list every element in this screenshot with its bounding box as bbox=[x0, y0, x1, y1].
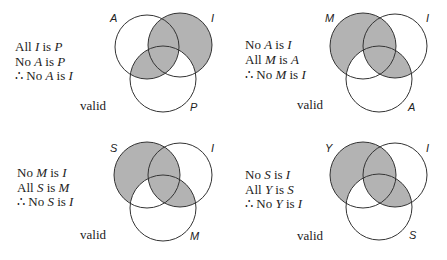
circle-label: S bbox=[110, 142, 118, 154]
syllogism-1: All I is P No A is P ∴ No A is I valid A… bbox=[15, 12, 214, 113]
verdict-label: valid bbox=[297, 97, 323, 112]
circle-label: I bbox=[211, 12, 214, 24]
venn-diagram-1: A I P bbox=[109, 12, 214, 113]
premise-line: No A is P bbox=[15, 54, 65, 69]
circle-label: I bbox=[211, 142, 214, 154]
premise-line: All I is P bbox=[15, 39, 62, 54]
conclusion-line: ∴ No Y is I bbox=[245, 196, 303, 211]
premise-line: All Y is S bbox=[245, 182, 294, 197]
venn-diagram-2: M I A bbox=[325, 12, 429, 113]
verdict-label: valid bbox=[80, 98, 106, 113]
premise-line: No M is I bbox=[17, 165, 67, 180]
conclusion-line: ∴ No A is I bbox=[15, 68, 74, 83]
verdict-label: valid bbox=[80, 227, 106, 242]
venn-diagram-figure: All I is P No A is P ∴ No A is I valid A… bbox=[0, 0, 447, 260]
circle-label: I bbox=[426, 142, 429, 154]
conclusion-line: ∴ No S is I bbox=[17, 194, 74, 209]
circle-label: M bbox=[190, 230, 200, 242]
syllogism-3: No M is I All S is M ∴ No S is I valid S… bbox=[17, 142, 214, 242]
premise-line: No S is I bbox=[245, 167, 291, 182]
premises-1: All I is P No A is P ∴ No A is I bbox=[15, 39, 74, 83]
venn-diagram-3: S I M bbox=[110, 142, 214, 242]
verdict-label: valid bbox=[297, 228, 323, 243]
circle-label: S bbox=[409, 229, 417, 241]
premise-line: No A is I bbox=[245, 37, 292, 52]
circle-label: Y bbox=[325, 142, 333, 154]
syllogism-4: No S is I All Y is S ∴ No Y is I valid Y… bbox=[245, 142, 429, 243]
circle-label: M bbox=[325, 12, 335, 24]
premise-line: All S is M bbox=[17, 180, 71, 195]
conclusion-line: ∴ No M is I bbox=[245, 67, 306, 82]
premises-4: No S is I All Y is S ∴ No Y is I bbox=[245, 167, 303, 211]
circle-label: A bbox=[407, 101, 415, 113]
circle-label: I bbox=[426, 12, 429, 24]
premises-3: No M is I All S is M ∴ No S is I bbox=[17, 165, 74, 209]
circle-label: A bbox=[109, 12, 117, 24]
syllogism-2: No A is I All M is A ∴ No M is I valid M… bbox=[245, 12, 429, 113]
premise-line: All M is A bbox=[245, 52, 299, 67]
venn-diagram-4: Y I S bbox=[325, 142, 429, 241]
circle-label: P bbox=[190, 101, 198, 113]
premises-2: No A is I All M is A ∴ No M is I bbox=[245, 37, 306, 82]
